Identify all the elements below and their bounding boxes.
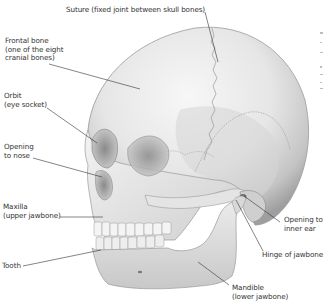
label-opening-to-nose: Opening to nose xyxy=(4,143,34,160)
lower-teeth xyxy=(96,235,164,250)
upper-teeth xyxy=(94,222,171,236)
label-hinge-of-jawbone: Hinge of jawbone xyxy=(262,251,323,260)
leader-tooth xyxy=(23,250,101,266)
label-opening-to-inner-ear: Opening to inner ear xyxy=(284,216,323,233)
skull-diagram: Suture (fixed joint between skull bones)… xyxy=(0,0,325,305)
label-suture: Suture (fixed joint between skull bones) xyxy=(66,6,205,15)
label-tooth: Tooth xyxy=(2,262,21,271)
label-maxilla: Maxilla (upper jawbone) xyxy=(3,203,61,220)
label-frontal-bone: Frontal bone (one of the eight cranial b… xyxy=(5,37,63,63)
label-mandible: Mandible (lower jawbone) xyxy=(232,284,288,301)
page-edge-fragment xyxy=(320,32,323,89)
label-orbit: Orbit (eye socket) xyxy=(4,92,47,109)
